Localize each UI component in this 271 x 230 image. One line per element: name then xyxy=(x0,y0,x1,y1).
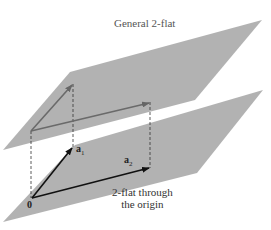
origin-2-flat-label-line1: 2-flat through xyxy=(112,186,173,198)
vector-a2-label: a2 xyxy=(124,154,133,168)
vector-a1-label: a1 xyxy=(76,143,85,157)
origin-2-flat-label: 2-flat through the origin xyxy=(112,186,173,210)
vector-a1-subscript: 1 xyxy=(81,149,85,157)
origin-zero-label: 0 xyxy=(27,199,32,210)
vector-a2-subscript: 2 xyxy=(129,160,133,168)
origin-2-flat-label-line2: the origin xyxy=(112,198,173,210)
general-2-flat-label: General 2-flat xyxy=(114,17,175,29)
